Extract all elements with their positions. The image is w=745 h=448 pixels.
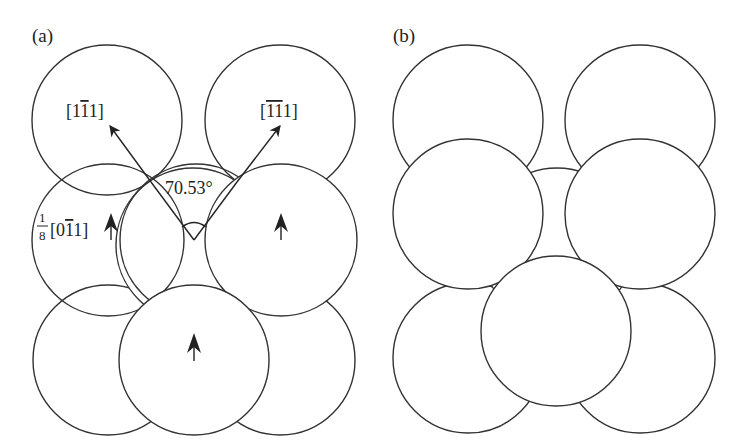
vector-label-1-1bar-1: [111] bbox=[66, 101, 104, 121]
svg-text:8: 8 bbox=[39, 228, 46, 243]
panel-a: (a) bbox=[32, 25, 357, 435]
panel-a-label: (a) bbox=[32, 25, 53, 47]
panel-b: (b) bbox=[393, 25, 715, 433]
angle-label: 70.53° bbox=[165, 178, 213, 198]
partial-vector-label: 1 8 [011] bbox=[37, 210, 88, 243]
svg-text:1: 1 bbox=[39, 210, 46, 225]
atom-a-top-left bbox=[32, 45, 182, 195]
svg-text:[011]: [011] bbox=[50, 220, 88, 240]
vector-label-1bar-1bar-1: [111] bbox=[260, 101, 298, 121]
panel-b-label: (b) bbox=[393, 25, 415, 47]
figure-canvas: (a) bbox=[0, 0, 745, 448]
atom-b-bottom-center bbox=[481, 256, 631, 406]
